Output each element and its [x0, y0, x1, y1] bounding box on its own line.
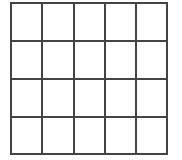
grid-vertical-line: [104, 2, 106, 155]
grid-vertical-line: [73, 2, 75, 155]
grid-horizontal-line: [10, 2, 168, 4]
grid-horizontal-line: [10, 78, 168, 80]
grid-vertical-line: [135, 2, 137, 155]
grid-vertical-line: [41, 2, 43, 155]
grid-horizontal-line: [10, 153, 168, 155]
grid-horizontal-line: [10, 116, 168, 118]
grid-vertical-line: [166, 2, 168, 155]
grid-vertical-line: [10, 2, 12, 155]
grid-horizontal-line: [10, 40, 168, 42]
grid-table: [10, 2, 168, 155]
